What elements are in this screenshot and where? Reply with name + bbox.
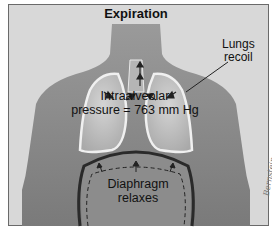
lungs-label-line2: recoil (222, 51, 255, 64)
diaphragm-label-line2: relaxes (90, 191, 186, 205)
diaphragm-label: Diaphragm relaxes (90, 177, 186, 205)
diagram-title: Expiration (0, 7, 272, 20)
diaphragm-label-line1: Diaphragm (90, 177, 186, 191)
pressure-label: Intraalveolar pressure = 763 mm Hg (70, 89, 200, 117)
pressure-label-line2: pressure = 763 mm Hg (70, 103, 200, 117)
lungs-recoil-label: Lungs recoil (222, 38, 255, 64)
pressure-label-line1: Intraalveolar (70, 89, 200, 103)
